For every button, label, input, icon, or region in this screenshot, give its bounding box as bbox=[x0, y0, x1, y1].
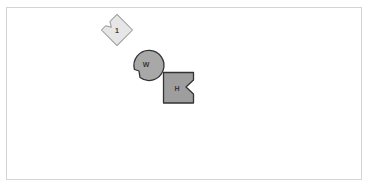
piece-h-label: H bbox=[174, 85, 179, 92]
piece-w-label: W bbox=[143, 61, 150, 68]
piece-1-label: 1 bbox=[115, 27, 119, 34]
puzzle-canvas: 1 W H bbox=[0, 0, 367, 186]
